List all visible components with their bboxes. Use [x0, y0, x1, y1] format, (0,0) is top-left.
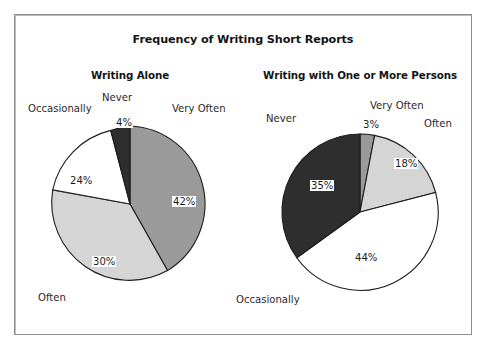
label-very-often-left: Very Often — [172, 103, 226, 114]
label-often-left: Often — [38, 292, 66, 303]
value-very-often-left: 42% — [172, 196, 196, 207]
label-never-left: Never — [102, 92, 132, 103]
label-very-often-right: Very Often — [370, 100, 424, 111]
label-often-right: Often — [424, 118, 452, 129]
value-occasionally-left: 24% — [70, 175, 92, 186]
value-very-often-right: 3% — [362, 119, 380, 130]
value-occasionally-right: 44% — [355, 252, 377, 263]
figure-container: Frequency of Writing Short Reports Writi… — [0, 0, 487, 352]
value-often-right: 18% — [394, 158, 418, 169]
value-never-left: 4% — [115, 117, 133, 128]
label-occasionally-right: Occasionally — [236, 294, 300, 305]
label-occasionally-left: Occasionally — [28, 103, 92, 114]
value-never-left-text: 4% — [116, 117, 132, 128]
value-never-right: 35% — [310, 180, 334, 191]
label-never-right: Never — [266, 113, 296, 124]
value-often-left: 30% — [92, 256, 116, 267]
